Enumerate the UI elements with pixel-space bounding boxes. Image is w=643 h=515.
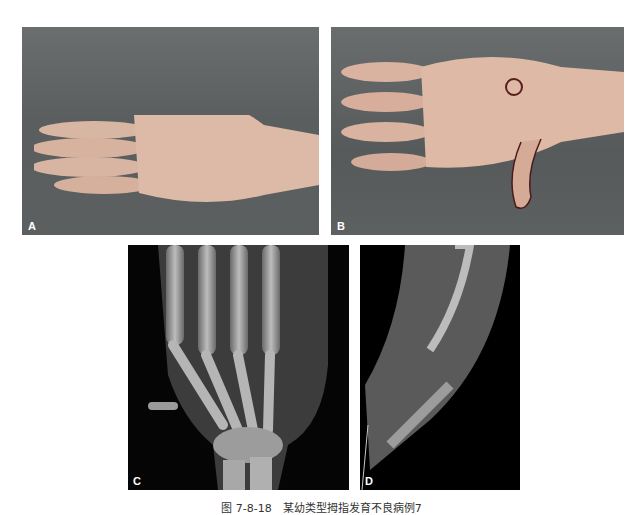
panel-label-c: C (133, 475, 141, 487)
xray-hand (128, 245, 349, 490)
xray-forearm (360, 245, 520, 490)
figure-panel-d: D (360, 245, 520, 490)
panel-label-d: D (365, 475, 373, 487)
figure-panel-b: B (331, 27, 624, 235)
hand-photo-palm (34, 115, 319, 205)
figure-panel-c: C (128, 245, 349, 490)
panel-label-b: B (337, 220, 345, 232)
figure-panel-a: A (22, 27, 319, 235)
panel-label-a: A (28, 220, 36, 232)
figure-caption: 图 7-8-18 某幼类型拇指发育不良病例7 (0, 499, 643, 515)
hand-photo-dorsal (331, 27, 624, 235)
